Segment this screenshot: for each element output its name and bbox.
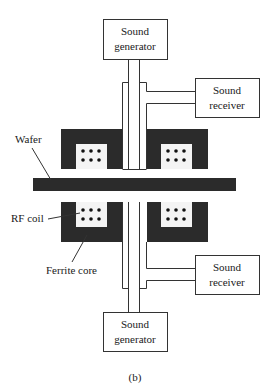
lower-generator-tube (129, 202, 140, 312)
upper-generator-tube (123, 60, 147, 170)
bottom-generator-line2: generator (114, 333, 156, 345)
top-receiver-line1: Sound (213, 84, 242, 96)
lower-left-ferrite-core (61, 202, 122, 242)
wafer-annotation: Wafer (15, 133, 51, 180)
top-sound-receiver: Sound receiver (196, 79, 260, 118)
top-sound-generator: Sound generator (104, 20, 168, 60)
figure-caption: (b) (129, 371, 142, 384)
bottom-receiver-line2: receiver (209, 276, 245, 288)
lower-right-ferrite-core (147, 202, 208, 242)
bottom-receiver-line1: Sound (213, 261, 242, 273)
top-receiver-line2: receiver (209, 99, 245, 111)
bottom-sound-receiver: Sound receiver (196, 256, 260, 295)
ferrite-core-label: Ferrite core (46, 264, 97, 276)
top-generator-line2: generator (114, 40, 156, 52)
bottom-generator-line1: Sound (121, 318, 150, 330)
rf-coil-label: RF coil (11, 212, 44, 224)
top-generator-line1: Sound (121, 25, 150, 37)
bottom-sound-generator: Sound generator (104, 313, 168, 352)
wafer (33, 178, 236, 191)
wafer-leader-line (32, 148, 51, 180)
diagram-canvas: Sound generator Sound receiver (0, 0, 274, 390)
wafer-label: Wafer (15, 133, 42, 145)
upper-left-ferrite-core (61, 129, 122, 169)
upper-right-ferrite-core (147, 129, 208, 169)
